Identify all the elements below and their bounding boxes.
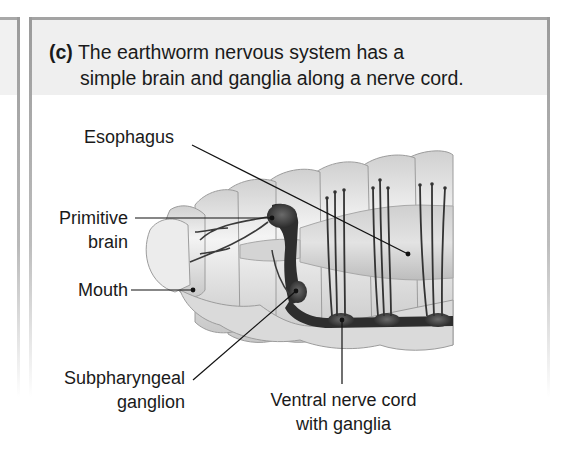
segment-ganglion <box>425 313 451 327</box>
label-primitive-brain-line-2: brain <box>48 231 128 253</box>
label-mouth: Mouth <box>60 279 128 301</box>
label-subpharyngeal-line-2: ganglion <box>44 391 185 413</box>
label-subpharyngeal-line-1: Subpharyngeal <box>44 367 185 389</box>
label-ventral-nerve-cord-line-2: with ganglia <box>256 413 431 435</box>
label-primitive-brain-line-1: Primitive <box>48 207 128 229</box>
label-ventral-nerve-cord-line-1: Ventral nerve cord <box>256 389 431 411</box>
label-esophagus: Esophagus <box>84 126 174 148</box>
